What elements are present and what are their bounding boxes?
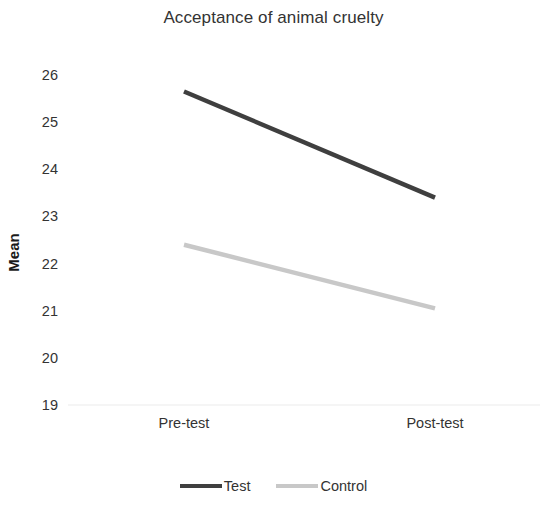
legend-label: Control — [320, 478, 367, 494]
legend-label: Test — [224, 478, 251, 494]
x-axis-tick-label: Post-test — [365, 415, 505, 431]
legend-item-control[interactable]: Control — [276, 478, 367, 494]
legend-swatch-test — [180, 484, 222, 488]
legend-swatch-control — [276, 484, 318, 488]
series-line-test — [184, 92, 435, 198]
legend-item-test[interactable]: Test — [180, 478, 251, 494]
chart-container: Acceptance of animal cruelty Mean 262524… — [0, 0, 547, 507]
series-lines — [184, 92, 435, 309]
x-axis-tick-label: Pre-test — [114, 415, 254, 431]
series-line-control — [184, 245, 435, 309]
chart-legend: TestControl — [0, 478, 547, 494]
